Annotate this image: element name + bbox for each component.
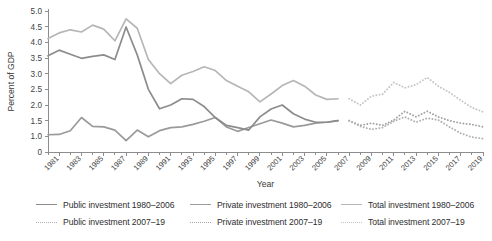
x-tick-label: 1995 [198,154,216,172]
y-tick-label: 4.5 [31,23,43,32]
y-tick-label: 3.5 [31,54,43,63]
legend-label: Private investment 1980–2006 [217,200,332,210]
x-tick-label: 1993 [176,154,194,172]
x-tick-label: 2001 [265,154,283,172]
y-tick-label: 3.0 [31,70,43,79]
legend-item[interactable]: Total investment 2007–19 [341,217,492,227]
y-tick-label: 0 [37,148,42,157]
chart-legend: Public investment 1980–2006Private inves… [0,196,492,241]
legend-swatch-dotted-icon [36,218,57,226]
x-tick-label: 2007 [332,154,350,172]
series-public_proj [349,117,483,139]
legend-swatch-dotted-icon [190,218,211,226]
x-tick-label: 2017 [444,154,462,172]
series-total_proj [349,77,483,111]
x-tick-label: 1985 [87,154,105,172]
x-tick-label: 2013 [399,154,417,172]
legend-label: Public investment 1980–2006 [63,200,174,210]
chart-container: 5.04.54.03.53.02.52.01.51.00198119831985… [0,0,492,241]
legend-item[interactable]: Public investment 1980–2006 [36,200,190,210]
legend-label: Public investment 2007–19 [63,217,165,227]
x-tick-label: 1999 [243,154,261,172]
x-axis-title: Year [257,179,275,189]
y-tick-label: 1.5 [31,117,43,126]
legend-item[interactable]: Total investment 1980–2006 [341,200,492,210]
series-public_hist [48,27,338,130]
y-tick-label: 2.0 [31,101,43,110]
x-tick-label: 1989 [131,154,149,172]
x-tick-label: 1991 [154,154,172,172]
series-private_hist [48,118,338,141]
x-tick-label: 1983 [65,154,83,172]
legend-row: Public investment 2007–19Private investm… [36,213,492,230]
y-tick-label: 2.5 [31,85,43,94]
x-tick-label: 2011 [377,154,395,172]
x-tick-label: 2009 [355,154,373,172]
x-tick-label: 1981 [42,154,60,172]
x-tick-label: 2015 [421,154,439,172]
legend-label: Total investment 2007–19 [368,217,465,227]
y-tick-label: 1.0 [31,132,43,141]
legend-swatch-solid-icon [190,201,211,209]
x-tick-label: 1997 [221,154,239,172]
legend-swatch-solid-icon [341,201,362,209]
series-private_proj [349,111,483,127]
y-tick-label: 4.0 [31,38,43,47]
legend-item[interactable]: Private investment 1980–2006 [190,200,341,210]
y-axis-title: Percent of GDP [6,51,16,111]
x-tick-label: 1987 [109,154,127,172]
legend-item[interactable]: Private investment 2007–19 [190,217,341,227]
legend-label: Total investment 1980–2006 [368,200,474,210]
legend-swatch-solid-icon [36,201,57,209]
series-total_hist [48,19,338,102]
x-tick-label: 2003 [288,154,306,172]
legend-label: Private investment 2007–19 [217,217,322,227]
legend-row: Public investment 1980–2006Private inves… [36,196,492,213]
legend-swatch-dotted-icon [341,218,362,226]
legend-item[interactable]: Public investment 2007–19 [36,217,190,227]
y-tick-label: 5.0 [31,7,43,16]
x-tick-label: 2005 [310,154,328,172]
x-tick-label: 2019 [466,154,484,172]
